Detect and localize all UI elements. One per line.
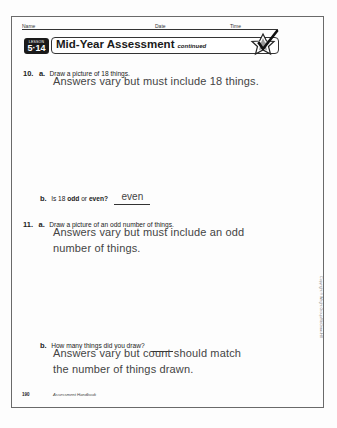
date-label: Date (155, 23, 166, 29)
part-letter: a. (39, 69, 45, 78)
title-suffix: continued (177, 43, 206, 49)
star-check-icon (250, 30, 282, 58)
page-title: Mid-Year Assessmentcontinued (56, 38, 206, 50)
answer-blank[interactable]: even (114, 186, 150, 205)
answer-text: the number of things drawn. (53, 363, 193, 375)
prompt-odd: odd (67, 195, 79, 202)
time-label: Time (230, 23, 241, 29)
prompt-text: or (79, 195, 89, 202)
part-letter: a. (38, 220, 44, 229)
answer-text: Answers vary but must include an odd (53, 226, 244, 238)
page-number: 190 (22, 392, 30, 397)
lesson-badge: LESSON 5·14 (24, 38, 49, 54)
header-rule (22, 29, 278, 30)
inline-answer: even (122, 191, 144, 202)
answer-text: Answers vary but count should match (53, 347, 241, 359)
lesson-number: 5·14 (24, 44, 49, 53)
copyright-notice: Copyright © Wright Group/McGraw-Hill (319, 276, 323, 338)
question-number: 10. (23, 69, 33, 78)
title-main: Mid-Year Assessment (56, 38, 174, 50)
part-letter: b. (40, 341, 47, 350)
question-number: 11. (23, 220, 33, 229)
answer-text: Answers vary but must include 18 things. (53, 75, 259, 87)
answer-text: number of things. (53, 242, 141, 254)
part-letter: b. (40, 194, 47, 203)
prompt-text: Is 18 (51, 195, 67, 202)
question-10b: b. Is 18 odd or even? even (40, 186, 150, 205)
prompt-even: even? (89, 195, 108, 202)
book-title: Assessment Handbook (53, 392, 96, 397)
